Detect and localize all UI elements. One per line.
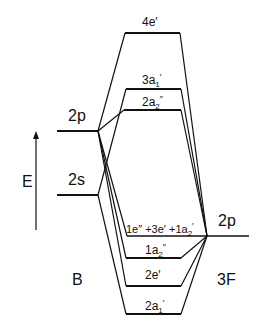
b2p-to-4e [98, 33, 125, 131]
b-2p-label: 2p [68, 108, 86, 124]
b-atom-label: B [72, 272, 83, 288]
f-2p-label: 2p [218, 213, 236, 229]
energy-arrow-head [33, 131, 39, 139]
b2s-to-3a1 [98, 89, 126, 195]
mo-2e-label: 2e′ [145, 269, 161, 281]
f2p-to-4e [180, 33, 207, 236]
b2p-to-1a2 [98, 131, 126, 258]
mo-3a1-label: 3a1′ [142, 71, 162, 91]
b2p-to-nb [98, 131, 127, 236]
mo-1a2-label: 1a2″ [145, 241, 166, 261]
b-2s-label: 2s [68, 172, 85, 188]
f3-atom-label: 3F [217, 272, 236, 288]
f2p-to-3a1 [181, 89, 207, 236]
mo-4e-label: 4e′ [142, 16, 158, 28]
energy-axis-label: E [22, 174, 33, 190]
mo-2a1-label: 2a1′ [145, 297, 165, 317]
b2p-to-2e [98, 131, 126, 286]
mo-nonbonding-label: 1e″ +3e′ +1a2′ [126, 220, 194, 240]
f2p-to-2e [181, 236, 207, 286]
f2p-to-2a2 [181, 110, 207, 236]
mo-2a2-label: 2a2″ [142, 93, 163, 113]
b2s-to-2a1 [98, 195, 126, 314]
